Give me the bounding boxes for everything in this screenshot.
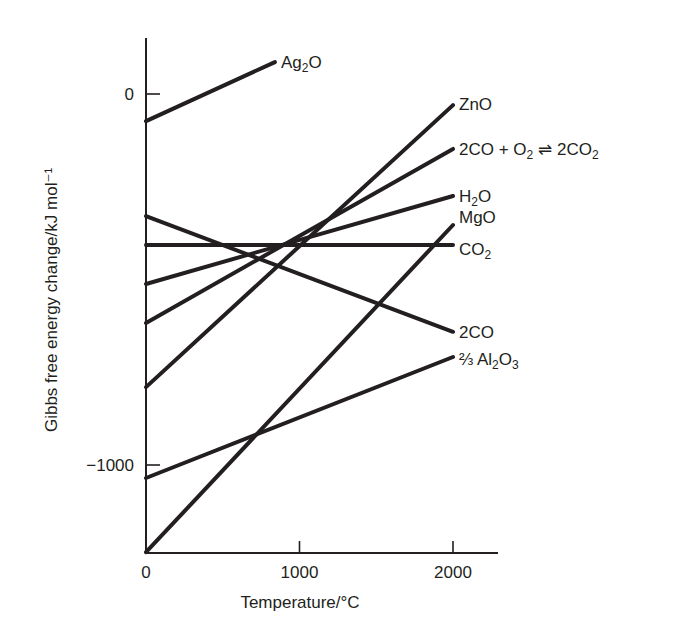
ticks (146, 94, 453, 553)
y-axis-title: Gibbs free energy change/kJ mol⁻¹ (42, 168, 61, 432)
label-mgo: MgO (459, 208, 496, 227)
line-2co-o2-2co2 (146, 149, 453, 323)
series-labels: Ag2OZnO2CO + O2 ⇌ 2CO2H2OMgOCO22CO⅔ Al2O… (281, 53, 599, 372)
label-h2o: H2O (459, 187, 491, 209)
label-co2: CO2 (459, 240, 492, 262)
line-h2o (146, 196, 453, 284)
line-2-3-al2o3 (146, 357, 453, 478)
label-2co-o2-2co2: 2CO + O2 ⇌ 2CO2 (459, 140, 599, 162)
x-tick-label: 0 (141, 563, 150, 582)
axes (146, 38, 498, 553)
x-tick-label: 1000 (281, 563, 319, 582)
y-tick-label: −1000 (86, 456, 134, 475)
x-axis-title: Temperature/°C (240, 593, 359, 612)
x-tick-label: 2000 (434, 563, 472, 582)
label-ag2o: Ag2O (281, 53, 322, 75)
ellingham-diagram: 0100020000−1000 Ag2OZnO2CO + O2 ⇌ 2CO2H2… (0, 0, 683, 643)
label-2co: 2CO (459, 323, 494, 342)
label-2-3-al2o3: ⅔ Al2O3 (459, 350, 519, 372)
line-ag2o (146, 62, 275, 121)
tick-labels: 0100020000−1000 (86, 85, 472, 582)
y-tick-label: 0 (125, 85, 134, 104)
series-lines (146, 62, 453, 552)
label-zno: ZnO (459, 95, 492, 114)
